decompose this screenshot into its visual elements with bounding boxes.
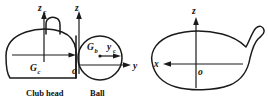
axis-label-yc-subscript: c bbox=[113, 47, 116, 54]
axis-y-left-arrowhead bbox=[123, 62, 131, 68]
club-head-side-outline bbox=[6, 29, 76, 78]
figure-container: z c G c z y o bbox=[0, 0, 268, 102]
axis-z-right-arrowhead bbox=[193, 17, 199, 25]
caption-ball: Ball bbox=[90, 88, 105, 98]
ball-center-dot bbox=[98, 54, 101, 57]
axis-y-left bbox=[79, 62, 131, 68]
left-side-view-group: z c G c z y o bbox=[6, 3, 138, 98]
club-hosel-outline bbox=[46, 17, 60, 34]
club-horizontal-arrowhead bbox=[69, 53, 77, 58]
caption-club-head: Club head bbox=[26, 88, 64, 98]
point-label-Gb: G bbox=[87, 42, 94, 52]
axis-yc-ball bbox=[100, 53, 121, 58]
ball-outline bbox=[78, 36, 122, 80]
axis-label-yc: y bbox=[106, 42, 112, 52]
club-head-top-outline bbox=[152, 26, 264, 90]
axis-yc-ball-arrowhead bbox=[113, 53, 121, 58]
axis-label-z-right: z bbox=[191, 6, 196, 16]
right-top-view-group: z x o bbox=[152, 6, 264, 90]
axis-x-right bbox=[163, 61, 243, 67]
golf-club-ball-coordinate-diagram: z c G c z y o bbox=[0, 0, 268, 102]
axis-label-zc-subscript: c bbox=[44, 8, 47, 15]
axis-z-right bbox=[193, 17, 199, 88]
axis-x-right-arrowhead bbox=[163, 61, 171, 67]
axis-label-x-right: x bbox=[153, 59, 159, 69]
point-label-Gb-subscript: b bbox=[95, 47, 99, 54]
axis-label-z-left: z bbox=[74, 3, 79, 13]
axis-label-y-left: y bbox=[132, 61, 138, 71]
axis-zc bbox=[41, 11, 47, 62]
point-label-Gc: G bbox=[30, 63, 37, 73]
point-label-o-left: o bbox=[72, 66, 77, 76]
point-label-o-right: o bbox=[198, 67, 203, 77]
axis-label-zc: z bbox=[37, 3, 42, 13]
point-label-Gc-subscript: c bbox=[38, 68, 41, 75]
